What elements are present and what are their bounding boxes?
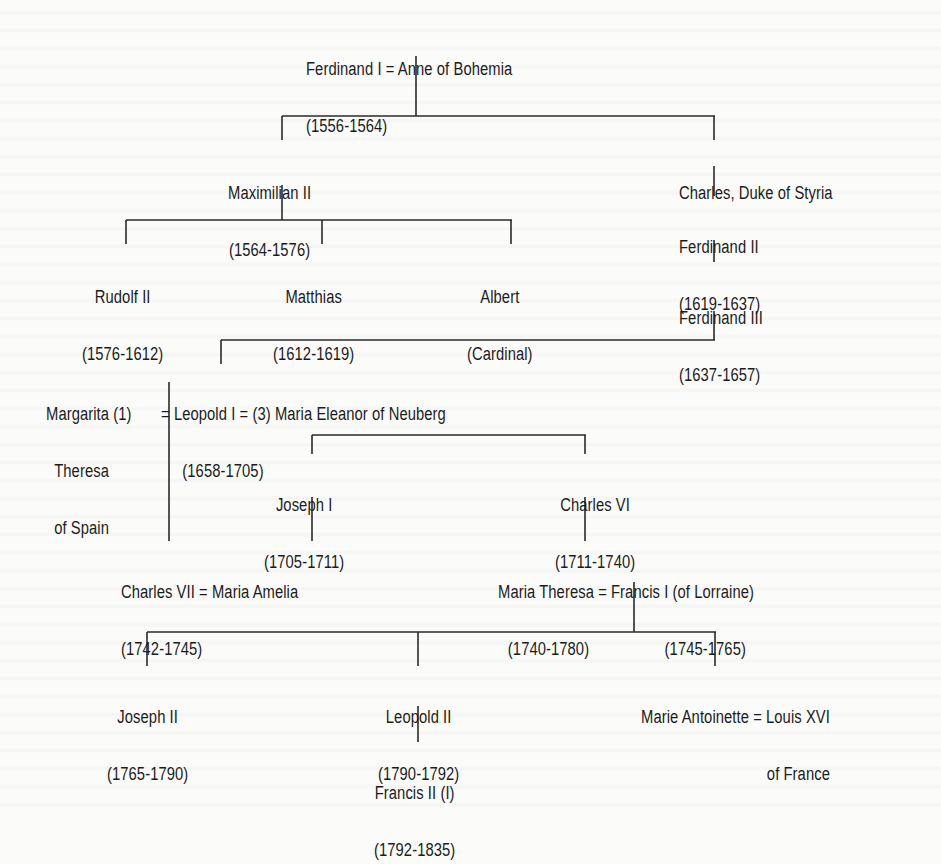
node-albert: Albert (Cardinal) xyxy=(467,250,533,383)
node-reign: (1576-1612) xyxy=(82,345,163,364)
node-matthias: Matthias (1612-1619) xyxy=(273,250,354,383)
node-joseph-ii: Joseph II (1765-1790) xyxy=(107,670,188,803)
node-marie-antoinette: Marie Antoinette = Louis XVI of France xyxy=(641,670,830,803)
reign-maria-theresa: (1740-1780) xyxy=(508,639,589,659)
node-name: Ferdinand II xyxy=(679,238,760,257)
node-ferdinand-iii: Ferdinand III (1637-1657) xyxy=(679,271,763,404)
node-reign: (1792-1835) xyxy=(374,841,455,860)
node-reign: (1637-1657) xyxy=(679,366,763,385)
node-name: Albert xyxy=(467,288,533,307)
node-maria-theresa: Maria Theresa = Francis I (of Lorraine) … xyxy=(498,545,754,678)
node-name: Ferdinand III xyxy=(679,309,763,328)
node-reign: (1740-1780)(1745-1765) xyxy=(498,640,754,659)
node-reign: (1556-1564) xyxy=(306,117,512,136)
node-margarita-theresa: Margarita (1) Theresa of Spain xyxy=(46,367,132,557)
node-name: Leopold II xyxy=(378,708,459,727)
node-francis-ii: Francis II (I) (1792-1835) xyxy=(374,746,455,864)
node-name-cont: Theresa xyxy=(46,462,132,481)
node-name: Joseph I xyxy=(264,496,344,515)
node-name: Maria Theresa = Francis I (of Lorraine) xyxy=(498,583,754,602)
node-name: Marie Antoinette = Louis XVI xyxy=(641,708,830,727)
node-name: Rudolf II xyxy=(82,288,163,307)
node-name: Margarita (1) xyxy=(46,405,132,424)
node-name: Maximilian II xyxy=(228,184,311,203)
node-name: = Leopold I = (3) Maria Eleanor of Neube… xyxy=(161,405,446,424)
node-name: Charles VII = Maria Amelia xyxy=(121,583,298,602)
node-name: Charles VI xyxy=(555,496,635,515)
node-charles-vii: Charles VII = Maria Amelia (1742-1745) xyxy=(121,545,298,678)
node-name: Francis II (I) xyxy=(374,784,455,803)
reign-francis-i: (1745-1765) xyxy=(665,639,746,659)
node-name: Matthias xyxy=(273,288,354,307)
node-ferdinand-i: Ferdinand I = Anne of Bohemia (1556-1564… xyxy=(306,22,512,155)
node-name-cont: of Spain xyxy=(46,519,132,538)
node-reign: (1742-1745) xyxy=(121,640,298,659)
node-name: Ferdinand I = Anne of Bohemia xyxy=(306,60,512,79)
node-name-cont: of France xyxy=(641,765,830,784)
node-reign: (Cardinal) xyxy=(467,345,533,364)
node-reign: (1612-1619) xyxy=(273,345,354,364)
node-name: Joseph II xyxy=(107,708,188,727)
node-rudolf-ii: Rudolf II (1576-1612) xyxy=(82,250,163,383)
node-reign: (1765-1790) xyxy=(107,765,188,784)
